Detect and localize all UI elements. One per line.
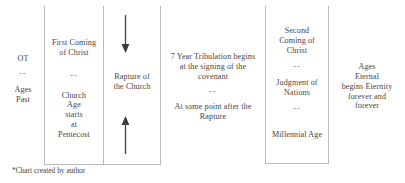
eternity-line-1: Ages (329, 62, 405, 72)
starts-label: starts (46, 110, 102, 120)
tribulation-line-2: at the signing of the (161, 62, 265, 72)
column-second-coming-judgment-millennial: Second Coming of Christ -- Judgment of N… (266, 26, 328, 140)
eternity-line-4: forever and (329, 92, 405, 102)
tribulation-line-1: 7 Year Tribulation begins (161, 52, 265, 62)
millennial-age-label: Millennial Age (266, 130, 328, 140)
chart-footnote: *Chart created by author (12, 166, 85, 175)
horizontal-rule-right (265, 163, 329, 164)
horizontal-rule-left (44, 164, 161, 165)
rapture-up-arrow (118, 115, 134, 155)
prophetic-timeline-chart: OT -- Ages Past First Coming of Christ -… (0, 0, 405, 183)
separator-glyph: -- (46, 72, 102, 81)
church-label: Church (46, 91, 102, 101)
separator-glyph: -- (2, 70, 44, 79)
past-label: Past (2, 95, 44, 105)
column-ot-ages-past: OT -- Ages Past (2, 54, 44, 104)
separator-glyph: -- (161, 88, 265, 97)
judgment-line-1: Judgment of (266, 78, 328, 88)
at-label: at (46, 120, 102, 130)
second-coming-line-3: Christ (266, 46, 328, 56)
eternity-line-3: begins Eternity (329, 82, 405, 92)
eternity-line-5: forever (329, 101, 405, 111)
age-label: Age (46, 100, 102, 110)
rapture-line-1: Rapture of (104, 72, 160, 82)
first-coming-line-1: First Coming (46, 38, 102, 48)
ot-label: OT (2, 54, 44, 64)
judgment-line-2: Nations (266, 88, 328, 98)
column-seven-year-tribulation: 7 Year Tribulation begins at the signing… (161, 52, 265, 122)
column-first-coming-church-age: First Coming of Christ -- Church Age sta… (46, 38, 102, 140)
pentecost-label: Pentecost (46, 130, 102, 140)
eternity-line-2: Eternal (329, 72, 405, 82)
tribulation-line-4: At some point after the (161, 102, 265, 112)
tribulation-line-5: Rapture (161, 112, 265, 122)
column-ages-eternal-eternity: Ages Eternal begins Eternity forever and… (329, 62, 405, 111)
rapture-line-2: the Church (104, 82, 160, 92)
column-rapture-of-the-church: Rapture of the Church (104, 72, 160, 92)
second-coming-line-1: Second (266, 26, 328, 36)
second-coming-line-2: Coming of (266, 36, 328, 46)
vertical-rule-1 (44, 6, 45, 164)
separator-glyph-2: -- (266, 105, 328, 114)
tribulation-line-3: covenant (161, 72, 265, 82)
rapture-down-arrow (118, 14, 134, 54)
ages-label: Ages (2, 85, 44, 95)
separator-glyph-1: -- (266, 63, 328, 72)
first-coming-line-2: of Christ (46, 48, 102, 58)
